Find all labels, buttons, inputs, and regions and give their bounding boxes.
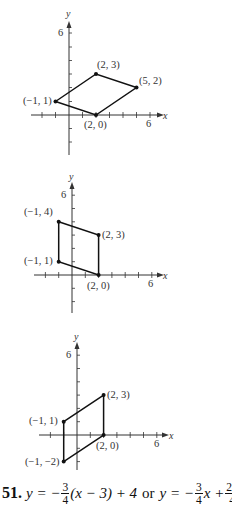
x-tick-6: 6	[154, 438, 159, 449]
point-label: (−1, 4)	[24, 206, 53, 218]
y-axis-label: y	[68, 171, 74, 182]
point-label: (2, 0)	[84, 119, 107, 131]
x-tick-6: 6	[146, 118, 151, 129]
y-tick-6: 6	[66, 349, 71, 360]
equation-part2-lhs: y = −	[160, 485, 194, 502]
point-label: (2, 0)	[87, 280, 110, 292]
graphs-canvas: y x 6 6 (2, 3) (5, 2) (−1, 1) (2, 0) y x…	[0, 0, 232, 470]
y-tick-6: 6	[58, 27, 63, 38]
parallelogram-2	[59, 222, 99, 275]
fraction-numerator: 3	[195, 481, 203, 494]
point-label: (5, 2)	[139, 75, 162, 87]
y-axis-arrow-icon	[67, 21, 72, 28]
y-axis-label: y	[73, 331, 79, 342]
fraction-denominator: 4	[62, 494, 68, 506]
parallelogram-3	[64, 395, 104, 462]
point-label: (2, 3)	[97, 59, 120, 71]
point-label: (2, 0)	[96, 440, 119, 452]
point-label: (−1, 1)	[24, 255, 53, 267]
fraction-numerator: 25	[225, 481, 232, 494]
vertex-points	[62, 393, 106, 464]
fraction-denominator: 4	[229, 494, 232, 506]
equation-part2-rest: x +	[204, 485, 225, 502]
y-axis-arrow-icon	[75, 342, 80, 349]
point-label: (−1, 1)	[23, 95, 52, 107]
x-tick-6: 6	[148, 278, 153, 289]
point-label: (2, 3)	[102, 229, 125, 241]
x-axis-arrow-icon	[162, 433, 169, 438]
y-axis-label: y	[65, 8, 71, 19]
point-label: (2, 3)	[107, 389, 130, 401]
equation-connector: or	[142, 485, 155, 502]
fraction-numerator: 3	[61, 481, 69, 494]
x-axis-label: x	[162, 110, 168, 121]
problem-number: 51.	[2, 484, 22, 502]
equation-part1-rest: (x − 3) + 4	[70, 485, 137, 502]
x-axis-label: x	[162, 270, 168, 281]
answer-equation: 51. y = − 3 4 (x − 3) + 4 or y = − 3 4 x…	[2, 477, 232, 509]
y-axis-arrow-icon	[70, 182, 75, 189]
x-axis-label: x	[168, 430, 174, 441]
point-label: (−1, 1)	[29, 415, 58, 427]
graph-2	[34, 182, 164, 313]
parallelogram-1	[56, 74, 137, 115]
fraction-25-4: 25 4	[225, 481, 232, 506]
fraction-3-4: 3 4	[195, 481, 203, 506]
fraction-3-4: 3 4	[61, 481, 69, 506]
graph-1	[31, 21, 164, 155]
y-tick-6: 6	[61, 189, 66, 200]
equation-part1-lhs: y = −	[26, 485, 60, 502]
fraction-denominator: 4	[196, 494, 202, 506]
point-label: (−1, −2)	[25, 456, 60, 468]
